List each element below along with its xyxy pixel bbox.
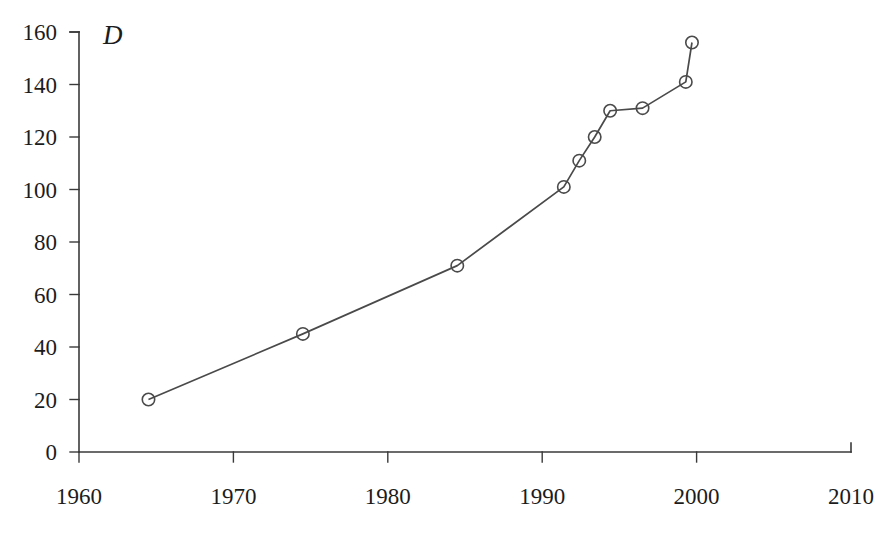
x-tick-label: 2010 bbox=[828, 485, 874, 508]
series-label-d: D bbox=[103, 22, 123, 49]
y-tick-label: 60 bbox=[0, 283, 57, 306]
data-point-markers bbox=[142, 36, 698, 405]
x-tick-label: 1980 bbox=[365, 485, 411, 508]
y-tick-label: 120 bbox=[0, 126, 57, 149]
y-tick-label: 40 bbox=[0, 336, 57, 359]
data-line-series-d bbox=[148, 43, 691, 400]
x-tick-label: 1960 bbox=[56, 485, 102, 508]
chart-tick-marks bbox=[70, 32, 697, 462]
chart-axes bbox=[70, 32, 851, 452]
x-tick-label: 1970 bbox=[210, 485, 256, 508]
y-tick-label: 20 bbox=[0, 388, 57, 411]
chart-figure: D 020406080100120140160 1960197019801990… bbox=[0, 0, 890, 535]
data-polyline bbox=[148, 43, 691, 400]
x-tick-label: 1990 bbox=[519, 485, 565, 508]
line-chart-plot bbox=[0, 0, 890, 535]
y-tick-label: 140 bbox=[0, 73, 57, 96]
y-tick-label: 80 bbox=[0, 231, 57, 254]
y-tick-label: 100 bbox=[0, 178, 57, 201]
y-tick-label: 160 bbox=[0, 21, 57, 44]
y-tick-label: 0 bbox=[0, 441, 57, 464]
x-tick-label: 2000 bbox=[674, 485, 720, 508]
